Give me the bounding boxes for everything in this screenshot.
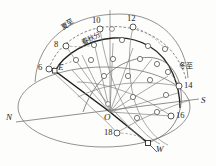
- node-intersection: [154, 109, 159, 114]
- node-intersection: [88, 57, 93, 62]
- node-intersection: [134, 115, 139, 120]
- marker-14[interactable]: [176, 83, 182, 89]
- label-hour-14: 14: [184, 81, 193, 90]
- label-winter-solstice: 冬至: [179, 63, 192, 70]
- label-east: E: [58, 63, 64, 72]
- sun-ray-group: [72, 43, 178, 116]
- marker-8[interactable]: [63, 43, 69, 49]
- node-intersection: [163, 92, 168, 97]
- label-west: W: [156, 145, 164, 154]
- marker-16[interactable]: [168, 113, 174, 119]
- sun-ray-5: [110, 59, 152, 112]
- label-hour-10: 10: [92, 16, 101, 25]
- node-intersection: [147, 77, 152, 82]
- node-east-square: [53, 69, 58, 74]
- label-hour-18: 18: [104, 128, 113, 137]
- node-intersection: [91, 42, 96, 47]
- label-hour-12: 12: [127, 14, 136, 23]
- label-south: S: [201, 96, 206, 105]
- node-intersection: [162, 46, 167, 51]
- node-intersection: [73, 57, 78, 62]
- node-intersection: [137, 56, 142, 61]
- node-intersection: [130, 94, 135, 99]
- node-west-square: [146, 141, 151, 146]
- label-hour-16: 16: [176, 111, 185, 120]
- dashed-connector-left: [66, 45, 94, 47]
- marker-18[interactable]: [114, 130, 120, 136]
- label-north: N: [6, 113, 12, 122]
- marker-6[interactable]: [46, 66, 52, 72]
- hour-circle-6: [49, 69, 117, 133]
- node-intersection: [154, 61, 159, 66]
- node-intersection: [110, 27, 115, 32]
- marker-12[interactable]: [130, 24, 136, 30]
- node-intersection: [165, 69, 170, 74]
- celestial-sphere-figure: N S E W O 6 8 10 12 14 16 18 夏至 春秋分 冬至: [0, 0, 216, 166]
- node-intersection: [145, 43, 150, 48]
- node-intersection: [101, 73, 106, 78]
- node-intersection: [106, 102, 111, 107]
- node-intersection: [119, 37, 124, 42]
- sun-ray-3: [110, 43, 113, 112]
- label-origin: O: [104, 113, 111, 122]
- node-intersection: [125, 73, 130, 78]
- node-intersection: [110, 56, 115, 61]
- label-hour-6: 6: [38, 63, 42, 72]
- label-hour-8: 8: [54, 40, 58, 49]
